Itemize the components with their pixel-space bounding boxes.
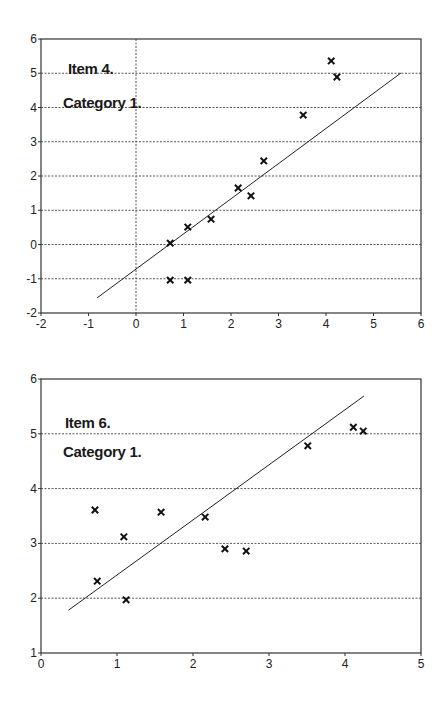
y-tick-label: 6 — [30, 372, 37, 386]
y-tick-label: 2 — [30, 591, 37, 605]
x-marker-icon — [243, 548, 249, 554]
x-axis-ticks: 012345 — [38, 653, 425, 671]
x-marker-icon — [202, 514, 208, 520]
x-marker-icon — [350, 424, 356, 430]
y-tick-label: 1 — [30, 646, 37, 660]
x-marker-icon — [305, 443, 311, 449]
gridlines — [41, 39, 421, 313]
x-marker-icon — [222, 546, 228, 552]
x-tick-label: 6 — [418, 317, 425, 331]
x-tick-label: 3 — [275, 317, 282, 331]
x-tick-label: 5 — [418, 657, 425, 671]
x-marker-icon — [334, 74, 340, 80]
regression-line — [97, 73, 401, 298]
x-marker-icon — [167, 240, 173, 246]
x-tick-label: 1 — [180, 317, 187, 331]
data-points — [167, 58, 340, 284]
x-marker-icon — [248, 193, 254, 199]
x-tick-label: -1 — [83, 317, 94, 331]
y-tick-label: 3 — [30, 135, 37, 149]
x-tick-label: 0 — [133, 317, 140, 331]
x-marker-icon — [167, 277, 173, 283]
y-tick-label: 6 — [30, 32, 37, 46]
x-tick-label: 4 — [323, 317, 330, 331]
y-tick-label: 4 — [30, 101, 37, 115]
annotation-item: Item 6. — [65, 414, 111, 431]
x-marker-icon — [185, 277, 191, 283]
scatter-chart-item-6: 123456 012345 Item 6. Category 1. — [0, 340, 444, 714]
x-marker-icon — [121, 534, 127, 540]
annotation-category: Category 1. — [63, 443, 142, 460]
y-axis-ticks: -2-10123456 — [26, 32, 41, 320]
x-marker-icon — [328, 58, 334, 64]
x-marker-icon — [94, 578, 100, 584]
x-tick-label: 2 — [190, 657, 197, 671]
y-tick-label: 4 — [30, 482, 37, 496]
x-tick-label: 5 — [370, 317, 377, 331]
x-marker-icon — [158, 509, 164, 515]
scatter-chart-item-4: -2-10123456 -2-10123456 Item 4. Category… — [0, 0, 444, 340]
x-tick-label: 4 — [342, 657, 349, 671]
y-tick-label: 5 — [30, 66, 37, 80]
x-tick-label: 1 — [114, 657, 121, 671]
x-tick-label: 0 — [38, 657, 45, 671]
y-tick-label: 5 — [30, 427, 37, 441]
x-marker-icon — [235, 185, 241, 191]
x-tick-label: 2 — [228, 317, 235, 331]
x-tick-label: 3 — [266, 657, 273, 671]
x-marker-icon — [208, 216, 214, 222]
annotation-item: Item 4. — [68, 60, 114, 77]
y-tick-label: 3 — [30, 536, 37, 550]
y-tick-label: 2 — [30, 169, 37, 183]
x-marker-icon — [261, 158, 267, 164]
y-tick-label: 0 — [30, 238, 37, 252]
y-tick-label: 1 — [30, 203, 37, 217]
annotation-category: Category 1. — [63, 94, 142, 111]
y-axis-ticks: 123456 — [30, 372, 41, 660]
x-tick-label: -2 — [36, 317, 47, 331]
x-marker-icon — [123, 597, 129, 603]
x-marker-icon — [300, 112, 306, 118]
y-tick-label: -1 — [26, 272, 37, 286]
x-marker-icon — [92, 507, 98, 513]
regression-line — [68, 396, 364, 610]
x-axis-ticks: -2-10123456 — [36, 313, 425, 331]
x-marker-icon — [185, 224, 191, 230]
